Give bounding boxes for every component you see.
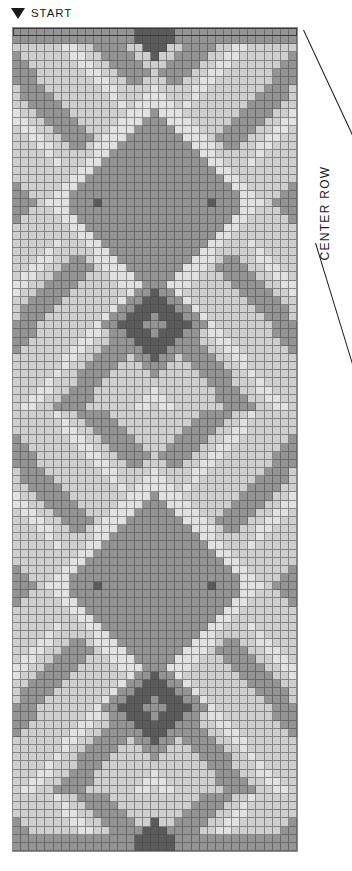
pattern-cell [94, 52, 102, 60]
pattern-cell [102, 427, 110, 435]
pattern-cell [94, 158, 102, 166]
pattern-cell [256, 704, 264, 712]
pattern-cell [86, 85, 94, 93]
pattern-cell [256, 729, 264, 737]
pattern-cell [13, 501, 21, 509]
pattern-cell [110, 248, 118, 256]
pattern-cell [135, 28, 143, 36]
pattern-cell [143, 321, 151, 329]
pattern-cell [273, 427, 281, 435]
pattern-cell [216, 297, 224, 305]
pattern-cell [240, 778, 248, 786]
pattern-cell [167, 794, 175, 802]
pattern-cell [183, 737, 191, 745]
pattern-cell [151, 509, 159, 517]
pattern-cell [175, 403, 183, 411]
pattern-cell [62, 435, 70, 443]
pattern-cell [232, 468, 240, 476]
pattern-cell [183, 109, 191, 117]
pattern-cell [289, 835, 297, 843]
pattern-cell [78, 52, 86, 60]
pattern-cell [256, 598, 264, 606]
pattern-cell [62, 843, 70, 851]
pattern-cell [118, 93, 126, 101]
pattern-cell [70, 745, 78, 753]
pattern-cell [167, 525, 175, 533]
pattern-cell [127, 786, 135, 794]
pattern-cell [21, 321, 29, 329]
pattern-cell [78, 607, 86, 615]
pattern-cell [29, 778, 37, 786]
pattern-cell [110, 468, 118, 476]
pattern-cell [13, 52, 21, 60]
pattern-cell [78, 623, 86, 631]
pattern-cell [192, 664, 200, 672]
pattern-cell [224, 688, 232, 696]
pattern-cell [232, 672, 240, 680]
pattern-cell [102, 77, 110, 85]
pattern-cell [273, 191, 281, 199]
pattern-cell [224, 639, 232, 647]
pattern-cell [70, 427, 78, 435]
pattern-cell [94, 558, 102, 566]
pattern-cell [289, 688, 297, 696]
pattern-cell [70, 607, 78, 615]
pattern-cell [135, 281, 143, 289]
pattern-cell [37, 843, 45, 851]
pattern-cell [110, 778, 118, 786]
pattern-cell [143, 362, 151, 370]
pattern-cell [62, 264, 70, 272]
pattern-cell [256, 492, 264, 500]
pattern-cell [54, 281, 62, 289]
pattern-cell [45, 721, 53, 729]
pattern-cell [216, 289, 224, 297]
pattern-cell [273, 598, 281, 606]
pattern-cell [37, 745, 45, 753]
pattern-cell [86, 517, 94, 525]
pattern-cell [167, 818, 175, 826]
pattern-cell [54, 69, 62, 77]
pattern-cell [135, 770, 143, 778]
pattern-cell [248, 264, 256, 272]
pattern-cell [29, 199, 37, 207]
pattern-cell [183, 827, 191, 835]
pattern-cell [78, 631, 86, 639]
pattern-cell [159, 484, 167, 492]
pattern-cell [29, 329, 37, 337]
pattern-cell [224, 28, 232, 36]
pattern-cell [21, 411, 29, 419]
pattern-cell [200, 664, 208, 672]
pattern-cell [110, 802, 118, 810]
pattern-cell [118, 664, 126, 672]
pattern-cell [216, 142, 224, 150]
pattern-cell [37, 835, 45, 843]
pattern-cell [127, 240, 135, 248]
pattern-cell [240, 517, 248, 525]
pattern-cell [289, 623, 297, 631]
pattern-cell [248, 158, 256, 166]
pattern-cell [240, 550, 248, 558]
pattern-cell [240, 109, 248, 117]
pattern-cell [13, 492, 21, 500]
pattern-cell [13, 672, 21, 680]
pattern-cell [167, 329, 175, 337]
pattern-cell [175, 329, 183, 337]
pattern-cell [78, 712, 86, 720]
pattern-cell [151, 501, 159, 509]
pattern-cell [224, 61, 232, 69]
pattern-cell [200, 61, 208, 69]
pattern-cell [102, 248, 110, 256]
pattern-cell [289, 647, 297, 655]
pattern-cell [102, 305, 110, 313]
pattern-cell [183, 85, 191, 93]
pattern-cell [94, 191, 102, 199]
pattern-cell [54, 354, 62, 362]
pattern-cell [289, 118, 297, 126]
pattern-cell [256, 346, 264, 354]
pattern-cell [37, 109, 45, 117]
pattern-cell [110, 582, 118, 590]
pattern-cell [21, 615, 29, 623]
pattern-cell [94, 207, 102, 215]
pattern-cell [240, 362, 248, 370]
pattern-cell [127, 615, 135, 623]
